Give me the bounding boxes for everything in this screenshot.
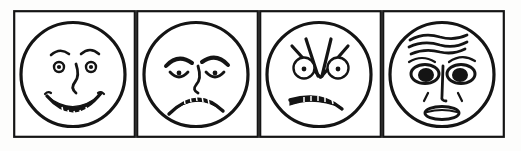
face-outline-circle	[144, 23, 248, 127]
left-pupil	[302, 67, 307, 72]
right-pupil	[336, 67, 341, 72]
face-panel-fearful[interactable]: fearful	[382, 10, 505, 138]
right-pupil	[452, 68, 468, 82]
face-panel-sad[interactable]: sad	[136, 10, 259, 138]
right-pupil	[213, 71, 218, 76]
faces-frame: happy	[13, 10, 505, 138]
mouth-open-oval	[425, 107, 459, 120]
figure-canvas: happy	[0, 0, 521, 151]
forehead-wrinkles	[409, 35, 467, 54]
face-panel-happy[interactable]: happy	[13, 10, 136, 138]
panel-row: happy	[13, 10, 505, 138]
right-pupil	[89, 65, 93, 69]
left-pupil	[57, 65, 61, 69]
face-panel-angry[interactable]: angry	[259, 10, 382, 138]
left-pupil	[418, 68, 434, 82]
left-pupil	[177, 71, 182, 76]
